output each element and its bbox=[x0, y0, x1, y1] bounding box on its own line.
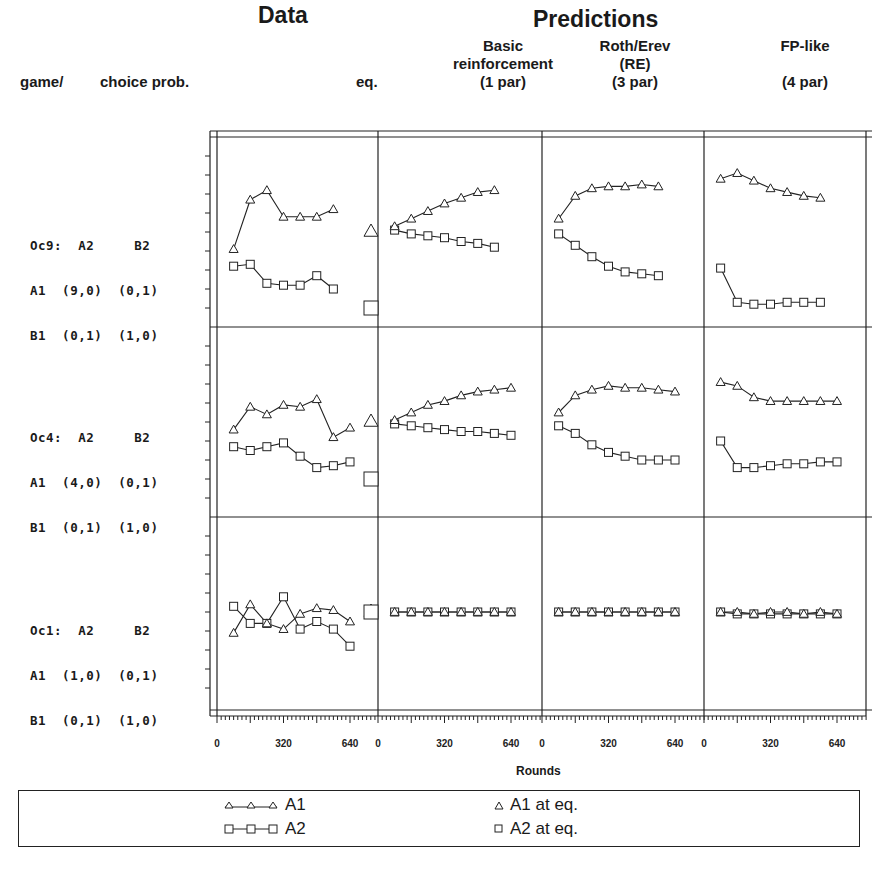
data-point-a1 bbox=[604, 182, 613, 190]
legend-item-a1: A1 bbox=[223, 795, 306, 815]
eq-marker-a1 bbox=[364, 414, 378, 426]
x-tick-label: 320 bbox=[436, 738, 453, 749]
data-point-a2 bbox=[621, 452, 629, 460]
data-point-a2 bbox=[733, 464, 741, 472]
data-point-a1 bbox=[766, 184, 775, 192]
legend-item-a2-eq: A2 at eq. bbox=[494, 819, 578, 839]
legend: A1 A2 A1 at eq. A2 at eq. bbox=[18, 790, 860, 847]
x-tick-label: 640 bbox=[829, 738, 846, 749]
data-point-a2 bbox=[783, 298, 791, 306]
data-point-a1 bbox=[312, 395, 321, 403]
data-point-a2 bbox=[346, 458, 354, 466]
data-point-a1 bbox=[312, 604, 321, 612]
data-point-a1 bbox=[816, 397, 825, 405]
data-point-a2 bbox=[263, 443, 271, 451]
data-point-a2 bbox=[457, 428, 465, 436]
data-point-a2 bbox=[280, 439, 288, 447]
data-point-a2 bbox=[474, 428, 482, 436]
data-point-a2 bbox=[474, 239, 482, 247]
data-point-a2 bbox=[296, 452, 304, 460]
data-point-a2 bbox=[800, 460, 808, 468]
data-point-a2 bbox=[717, 437, 725, 445]
data-point-a2 bbox=[571, 429, 579, 437]
data-point-a2 bbox=[329, 625, 337, 633]
data-point-a1 bbox=[833, 397, 842, 405]
data-point-a2 bbox=[424, 424, 432, 432]
data-point-a1 bbox=[246, 402, 255, 410]
data-point-a2 bbox=[833, 458, 841, 466]
eq-marker-a2 bbox=[364, 605, 378, 619]
data-point-a2 bbox=[313, 272, 321, 280]
data-point-a1 bbox=[407, 408, 416, 416]
data-point-a1 bbox=[346, 423, 355, 431]
data-point-a2 bbox=[441, 234, 449, 242]
x-tick-label: 320 bbox=[275, 738, 292, 749]
eq-marker-a2 bbox=[364, 301, 378, 315]
data-point-a1 bbox=[246, 600, 255, 608]
x-tick-label: 0 bbox=[701, 738, 707, 749]
data-point-a2 bbox=[654, 456, 662, 464]
data-point-a1 bbox=[262, 410, 271, 418]
data-point-a2 bbox=[230, 602, 238, 610]
data-point-a2 bbox=[555, 422, 563, 430]
data-point-a2 bbox=[588, 441, 596, 449]
data-point-a2 bbox=[767, 300, 775, 308]
data-point-a1 bbox=[571, 191, 580, 199]
data-point-a1 bbox=[637, 180, 646, 188]
data-point-a1 bbox=[229, 245, 238, 253]
data-point-a1 bbox=[749, 176, 758, 184]
data-point-a2 bbox=[457, 238, 465, 246]
data-point-a2 bbox=[638, 270, 646, 278]
data-point-a2 bbox=[329, 462, 337, 470]
data-point-a2 bbox=[246, 619, 254, 627]
x-tick-label: 640 bbox=[503, 738, 520, 749]
data-point-a2 bbox=[816, 298, 824, 306]
data-point-a2 bbox=[407, 230, 415, 238]
x-tick-label: 0 bbox=[375, 738, 381, 749]
x-tick-label: 640 bbox=[667, 738, 684, 749]
legend-label-a1: A1 bbox=[285, 795, 306, 815]
data-point-a2 bbox=[346, 642, 354, 650]
triangle-line-icon bbox=[223, 799, 279, 811]
data-point-a2 bbox=[424, 232, 432, 240]
data-point-a1 bbox=[329, 433, 338, 441]
data-point-a1 bbox=[637, 383, 646, 391]
legend-item-a2: A2 bbox=[223, 819, 306, 839]
data-point-a1 bbox=[229, 628, 238, 636]
data-point-a2 bbox=[507, 431, 515, 439]
data-point-a2 bbox=[490, 429, 498, 437]
data-point-a2 bbox=[329, 285, 337, 293]
data-point-a2 bbox=[783, 460, 791, 468]
data-point-a1 bbox=[346, 617, 355, 625]
data-point-a1 bbox=[329, 205, 338, 213]
eq-marker-a2 bbox=[364, 472, 378, 486]
data-point-a1 bbox=[783, 397, 792, 405]
x-tick-label: 0 bbox=[214, 738, 220, 749]
data-point-a1 bbox=[279, 212, 288, 220]
data-point-a2 bbox=[750, 464, 758, 472]
data-point-a1 bbox=[407, 214, 416, 222]
data-point-a2 bbox=[313, 618, 321, 626]
x-axis-label: Rounds bbox=[516, 764, 561, 778]
data-point-a1 bbox=[733, 169, 742, 177]
data-point-a2 bbox=[638, 456, 646, 464]
data-point-a2 bbox=[407, 422, 415, 430]
legend-label-a2-eq: A2 at eq. bbox=[510, 819, 578, 839]
data-point-a1 bbox=[229, 425, 238, 433]
data-point-a2 bbox=[555, 230, 563, 238]
data-point-a1 bbox=[604, 381, 613, 389]
legend-label-a2: A2 bbox=[285, 819, 306, 839]
data-point-a2 bbox=[230, 262, 238, 270]
data-point-a2 bbox=[605, 262, 613, 270]
data-point-a2 bbox=[296, 625, 304, 633]
data-point-a1 bbox=[262, 186, 271, 194]
data-point-a1 bbox=[554, 214, 563, 222]
data-point-a2 bbox=[490, 243, 498, 251]
data-point-a2 bbox=[246, 260, 254, 268]
triangle-icon bbox=[494, 799, 504, 811]
data-point-a2 bbox=[733, 298, 741, 306]
data-point-a1 bbox=[490, 186, 499, 194]
square-icon bbox=[494, 823, 504, 835]
x-tick-label: 320 bbox=[600, 738, 617, 749]
data-point-a1 bbox=[507, 383, 516, 391]
